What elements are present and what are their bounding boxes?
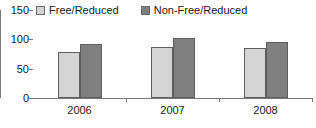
bar-2007-free-reduced bbox=[151, 47, 173, 98]
x-axis-tick-mark bbox=[126, 98, 127, 102]
x-axis-label-2007: 2007 bbox=[160, 104, 184, 116]
x-axis-label-2006: 2006 bbox=[67, 104, 91, 116]
bar-2008-free-reduced bbox=[244, 48, 266, 98]
y-axis-tick-label: 50 bbox=[17, 63, 29, 75]
bar-2008-non-free-reduced bbox=[266, 42, 288, 98]
bar-chart: Free/Reduced Non-Free/Reduced 050100150 … bbox=[0, 0, 316, 128]
bar-2007-non-free-reduced bbox=[173, 38, 195, 98]
bar-group-2008 bbox=[244, 10, 288, 98]
x-axis-tick-mark bbox=[312, 98, 313, 102]
x-axis-label-2008: 2008 bbox=[253, 104, 277, 116]
bar-group-2007 bbox=[151, 10, 195, 98]
y-axis-tick-label: 100 bbox=[11, 33, 29, 45]
x-axis-tick-mark bbox=[219, 98, 220, 102]
bar-group-2006 bbox=[58, 10, 102, 98]
y-axis-tick-label: 0 bbox=[23, 92, 29, 104]
y-axis-tick-mark bbox=[29, 98, 33, 99]
y-axis-line bbox=[0, 10, 1, 98]
y-axis-tick-label: 150 bbox=[11, 4, 29, 16]
bar-2006-non-free-reduced bbox=[80, 44, 102, 98]
x-axis-line bbox=[33, 98, 312, 99]
bar-2006-free-reduced bbox=[58, 52, 80, 98]
plot-area bbox=[33, 10, 312, 98]
